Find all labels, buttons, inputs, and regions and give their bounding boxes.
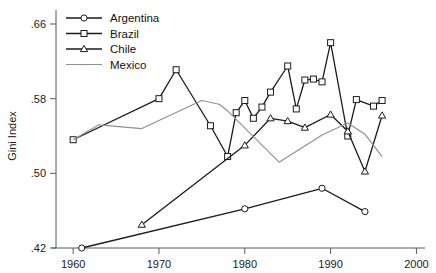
data-point-brazil xyxy=(242,98,248,104)
legend-item-chile[interactable]: Chile xyxy=(66,43,136,55)
legend-marker-argentina xyxy=(81,15,87,21)
y-axis-title: Gini Index xyxy=(6,111,18,161)
data-point-brazil xyxy=(371,103,377,109)
y-tick-label: .66 xyxy=(31,18,46,30)
data-point-argentina xyxy=(319,185,325,191)
series-line-mexico xyxy=(73,101,382,163)
y-tick-label: .50 xyxy=(31,167,46,179)
x-tick-label: 2000 xyxy=(404,258,428,270)
data-point-chile xyxy=(361,168,368,174)
data-point-brazil xyxy=(268,89,274,95)
legend-label-chile: Chile xyxy=(110,43,136,55)
gini-index-line-chart: .42.50.58.66 Gini Index 1960197019801990… xyxy=(0,0,436,273)
data-point-brazil xyxy=(310,76,316,82)
data-point-chile xyxy=(267,115,274,121)
data-point-brazil xyxy=(173,67,179,73)
x-tick-group: 19601970198019902000 xyxy=(61,248,429,270)
x-axis: 19601970198019902000 xyxy=(52,248,429,270)
data-point-brazil xyxy=(353,97,359,103)
data-point-chile xyxy=(378,112,385,118)
legend-item-brazil[interactable]: Brazil xyxy=(66,28,139,40)
series-chile xyxy=(138,111,385,227)
series-group xyxy=(70,40,386,251)
data-point-brazil xyxy=(319,79,325,85)
legend-marker-brazil xyxy=(81,31,87,37)
data-point-argentina xyxy=(362,209,368,215)
data-point-brazil xyxy=(233,110,239,116)
y-tick-group: .42.50.58.66 xyxy=(31,18,56,254)
chart-legend: ArgentinaBrazilChileMexico xyxy=(66,12,160,71)
data-point-brazil xyxy=(156,96,162,102)
data-point-brazil xyxy=(285,63,291,69)
x-tick-label: 1980 xyxy=(233,258,257,270)
data-point-chile xyxy=(327,111,334,117)
y-tick-label: .58 xyxy=(31,93,46,105)
chart-container: .42.50.58.66 Gini Index 1960197019801990… xyxy=(0,0,436,273)
data-point-brazil xyxy=(250,115,256,121)
legend-item-argentina[interactable]: Argentina xyxy=(66,12,160,24)
y-tick-label: .42 xyxy=(31,242,46,254)
data-point-brazil xyxy=(328,40,334,46)
data-point-brazil xyxy=(293,106,299,112)
y-axis: .42.50.58.66 Gini Index xyxy=(6,10,56,254)
legend-label-mexico: Mexico xyxy=(110,59,146,71)
series-argentina xyxy=(79,185,368,251)
x-tick-label: 1990 xyxy=(318,258,342,270)
data-point-brazil xyxy=(302,77,308,83)
x-tick-label: 1970 xyxy=(147,258,171,270)
series-mexico xyxy=(73,101,382,163)
legend-item-mexico[interactable]: Mexico xyxy=(66,59,146,71)
data-point-brazil xyxy=(207,123,213,129)
data-point-brazil xyxy=(259,104,265,110)
x-tick-label: 1960 xyxy=(61,258,85,270)
data-point-brazil xyxy=(379,98,385,104)
series-line-argentina xyxy=(82,188,365,248)
data-point-argentina xyxy=(242,206,248,212)
legend-label-argentina: Argentina xyxy=(110,12,160,24)
data-point-argentina xyxy=(79,245,85,251)
legend-label-brazil: Brazil xyxy=(110,28,139,40)
